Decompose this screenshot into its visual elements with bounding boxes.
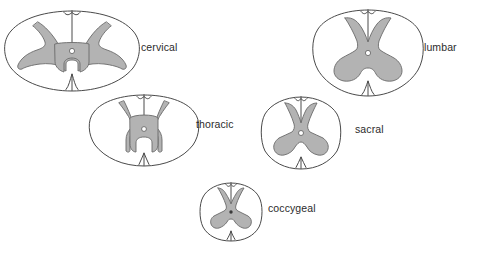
thoracic-central-canal (142, 127, 147, 132)
coccygeal-central-canal (229, 210, 232, 213)
section-label-coccygeal: coccygeal (268, 202, 316, 214)
sacral-central-canal (299, 131, 304, 136)
section-label-lumbar: lumbar (424, 41, 457, 53)
section-label-sacral: sacral (355, 123, 384, 135)
cervical-central-canal (69, 48, 74, 53)
section-label-cervical: cervical (141, 41, 177, 53)
section-label-thoracic: thoracic (196, 118, 234, 130)
section-lumbar: lumbar (313, 10, 457, 96)
section-thoracic: thoracic (89, 95, 233, 166)
section-coccygeal: coccygeal (200, 183, 316, 241)
lumbar-central-canal (365, 50, 370, 55)
section-sacral: sacral (261, 97, 383, 169)
section-cervical: cervical (5, 11, 178, 91)
spinal-cord-cross-sections-figure: cervical thoracic lumbar sacral (0, 0, 482, 261)
